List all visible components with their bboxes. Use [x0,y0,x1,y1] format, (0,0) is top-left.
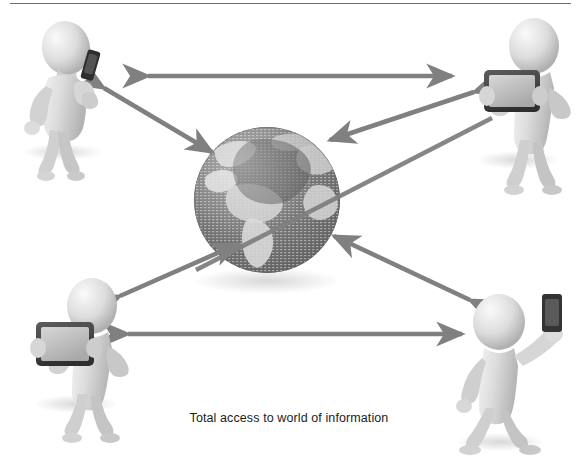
arrow-bottom-right-to-globe [334,236,470,300]
arrow-top-right-to-globe [330,92,474,140]
diagram-caption: Total access to world of information [0,411,578,425]
arrow-top-left-to-globe [104,88,212,152]
person-bottom-right [456,294,563,455]
person-top-right [476,18,571,195]
diagram-page: Total access to world of information [0,0,578,473]
diagram-canvas [0,0,578,473]
person-top-left [22,17,102,181]
globe [193,127,341,294]
smartphone-bottom-right [542,294,562,332]
